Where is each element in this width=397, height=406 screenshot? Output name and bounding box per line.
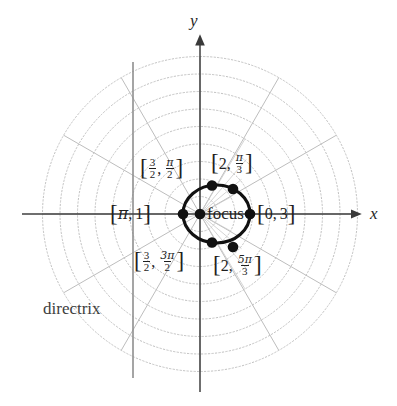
fraction-denominator: 3 — [236, 163, 244, 175]
fraction-numerator: 3 — [143, 250, 151, 261]
fraction-denominator: 2 — [149, 168, 157, 180]
bracket-open: [ — [257, 204, 265, 225]
label-point-pi-1: [π,1] — [110, 204, 151, 225]
fraction-theta: π 3 — [235, 152, 244, 175]
fraction-r: 3 2 — [149, 157, 157, 180]
bracket-close: ] — [175, 158, 183, 179]
fraction-numerator: π — [235, 152, 244, 163]
bracket-close: ] — [176, 251, 184, 272]
comma: , — [128, 206, 135, 222]
point-3-2-pi-over-2 — [207, 180, 218, 191]
label-point-3-2-3pi-over-2: [ 3 2 , 3π 2 ] — [134, 250, 184, 273]
bracket-close: ] — [245, 153, 253, 174]
bracket-open: [ — [140, 158, 148, 179]
fraction-r: 3 2 — [143, 250, 151, 273]
fraction-denominator: 2 — [166, 168, 174, 180]
fraction-numerator: π — [165, 157, 174, 168]
value-theta: 1 — [135, 206, 143, 222]
label-point-3-2-pi-over-2: [ 3 2 , π 2 ] — [140, 157, 183, 180]
point-2-5pi-over-3 — [228, 242, 239, 253]
value-theta: 3 — [280, 206, 288, 222]
bracket-close: ] — [143, 204, 151, 225]
point-2-pi-over-3 — [228, 184, 239, 195]
figure-background — [0, 0, 397, 406]
fraction-denominator: 2 — [143, 261, 151, 273]
fraction-theta: π 2 — [165, 157, 174, 180]
value-r: π — [118, 206, 129, 222]
fraction-numerator: 3 — [149, 157, 157, 168]
bracket-close: ] — [254, 255, 262, 276]
directrix-label: directrix — [43, 300, 101, 317]
bracket-open: [ — [134, 251, 142, 272]
label-point-2-5pi-over-3: [2, 5π 3 ] — [213, 254, 262, 277]
point-pi-1 — [178, 209, 189, 220]
label-point-2-pi-over-3: [2, π 3 ] — [211, 152, 253, 175]
label-point-0-3: [0,3] — [257, 204, 295, 225]
fraction-denominator: 3 — [241, 265, 249, 277]
comma: , — [273, 206, 280, 222]
fraction-numerator: 3π — [159, 250, 175, 261]
polar-conic-figure — [0, 0, 397, 406]
comma: , — [151, 254, 158, 270]
point-3-2-3pi-over-2 — [207, 237, 218, 248]
bracket-open: [ — [211, 153, 219, 174]
comma: , — [157, 161, 164, 177]
fraction-denominator: 2 — [164, 261, 172, 273]
bracket-close: ] — [288, 204, 296, 225]
fraction-theta: 3π 2 — [159, 250, 175, 273]
fraction-numerator: 5π — [237, 254, 253, 265]
focus-point — [195, 209, 206, 220]
value-r: 0 — [265, 206, 273, 222]
x-axis-label: x — [370, 205, 378, 222]
bracket-open: [ — [110, 204, 118, 225]
y-axis-label: y — [190, 12, 198, 29]
focus-label: focus — [207, 205, 244, 222]
value-r: 2 — [219, 156, 227, 172]
comma: , — [227, 156, 234, 172]
fraction-theta: 5π 3 — [237, 254, 253, 277]
bracket-open: [ — [213, 255, 221, 276]
point-0-3 — [245, 209, 256, 220]
value-r: 2 — [221, 258, 229, 274]
comma: , — [229, 258, 236, 274]
